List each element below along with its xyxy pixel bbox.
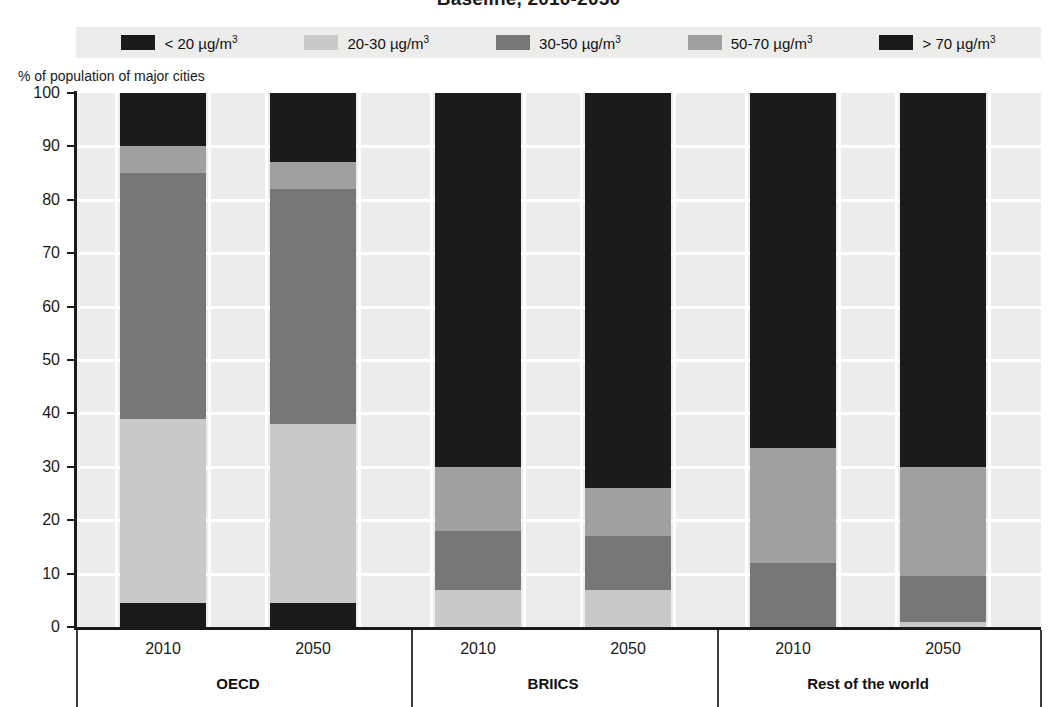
x-axis-line xyxy=(74,627,1041,630)
bar-segment-30-50-g-m3 xyxy=(750,563,836,627)
y-tick-label-10: 10 xyxy=(4,566,60,582)
bar-segment--70-g-m3 xyxy=(270,93,356,162)
y-tick-60 xyxy=(67,306,75,308)
y-tick-label-90: 90 xyxy=(4,138,60,154)
y-tick-label-70: 70 xyxy=(4,245,60,261)
y-tick-70 xyxy=(67,252,75,254)
legend-item-gt-70[interactable]: > 70 µg/m3 xyxy=(879,35,995,51)
legend-item-20-30[interactable]: 20-30 µg/m3 xyxy=(304,35,429,51)
bar-segment-20-30-g-m3 xyxy=(435,590,521,627)
legend-swatch-gt-70 xyxy=(879,35,913,50)
x-axis-year-label: 2010 xyxy=(733,640,853,658)
bar-segment-30-50-g-m3 xyxy=(270,189,356,424)
bar-segment--70-g-m3 xyxy=(750,93,836,448)
group-label-rest-of-the-world: Rest of the world xyxy=(703,675,1033,692)
bar-segment--70-g-m3 xyxy=(120,93,206,146)
bar-briics-2010[interactable] xyxy=(435,93,521,627)
legend-label-30-50: 30-50 µg/m3 xyxy=(539,35,621,51)
bar-segment-20-30-g-m3 xyxy=(120,419,206,603)
bar-segment-50-70-g-m3 xyxy=(435,467,521,531)
bar-segment--20-g-m3 xyxy=(120,603,206,627)
bar-rest-of-the-world-2010[interactable] xyxy=(750,93,836,627)
legend-item-lt-20[interactable]: < 20 µg/m3 xyxy=(121,35,237,51)
legend-swatch-50-70 xyxy=(688,35,722,50)
legend-label-20-30: 20-30 µg/m3 xyxy=(347,35,429,51)
y-tick-label-80: 80 xyxy=(4,192,60,208)
legend-label-50-70: 50-70 µg/m3 xyxy=(731,35,813,51)
y-tick-label-100: 100 xyxy=(4,85,60,101)
vgridline-5-0 xyxy=(895,93,898,627)
chart-title: Baseline, 2010-2050 xyxy=(0,0,1057,10)
bar-segment-50-70-g-m3 xyxy=(120,146,206,173)
bar-segment--70-g-m3 xyxy=(900,93,986,467)
vgridline-0-1 xyxy=(208,93,211,627)
bar-segment-30-50-g-m3 xyxy=(435,531,521,590)
bar-segment-30-50-g-m3 xyxy=(120,173,206,419)
x-axis-year-label: 2010 xyxy=(103,640,223,658)
legend-label-lt-20: < 20 µg/m3 xyxy=(164,35,237,51)
y-tick-10 xyxy=(67,573,75,575)
legend-swatch-lt-20 xyxy=(121,35,155,50)
bar-segment--20-g-m3 xyxy=(270,603,356,627)
y-tick-label-60: 60 xyxy=(4,299,60,315)
bar-oecd-2010[interactable] xyxy=(120,93,206,627)
legend-label-gt-70: > 70 µg/m3 xyxy=(922,35,995,51)
bar-briics-2050[interactable] xyxy=(585,93,671,627)
vgridline-5-1 xyxy=(988,93,991,627)
vgridline-2-1 xyxy=(523,93,526,627)
y-tick-30 xyxy=(67,466,75,468)
legend-swatch-20-30 xyxy=(304,35,338,50)
y-tick-label-40: 40 xyxy=(4,405,60,421)
vgridline-4-0 xyxy=(745,93,748,627)
y-axis-caption: % of population of major cities xyxy=(18,68,205,84)
group-separator-3 xyxy=(1040,630,1042,707)
group-separator-0 xyxy=(76,630,78,707)
group-label-oecd: OECD xyxy=(73,675,403,692)
bar-segment--70-g-m3 xyxy=(585,93,671,488)
y-tick-label-30: 30 xyxy=(4,459,60,475)
y-tick-50 xyxy=(67,359,75,361)
legend-item-50-70[interactable]: 50-70 µg/m3 xyxy=(688,35,813,51)
x-axis-year-label: 2050 xyxy=(568,640,688,658)
bar-segment-50-70-g-m3 xyxy=(750,448,836,563)
bar-segment--70-g-m3 xyxy=(435,93,521,467)
y-tick-90 xyxy=(67,145,75,147)
y-tick-100 xyxy=(67,92,75,94)
bar-rest-of-the-world-2050[interactable] xyxy=(900,93,986,627)
group-label-briics: BRIICS xyxy=(388,675,718,692)
y-tick-0 xyxy=(67,626,75,628)
y-tick-40 xyxy=(67,412,75,414)
y-tick-label-50: 50 xyxy=(4,352,60,368)
y-tick-20 xyxy=(67,519,75,521)
bar-segment-20-30-g-m3 xyxy=(585,590,671,627)
bar-segment-50-70-g-m3 xyxy=(900,467,986,576)
bar-segment-20-30-g-m3 xyxy=(270,424,356,603)
legend-item-30-50[interactable]: 30-50 µg/m3 xyxy=(496,35,621,51)
y-tick-80 xyxy=(67,199,75,201)
plot-area xyxy=(76,93,1041,627)
bar-segment-50-70-g-m3 xyxy=(585,488,671,536)
bar-oecd-2050[interactable] xyxy=(270,93,356,627)
vgridline-2-0 xyxy=(430,93,433,627)
y-tick-label-0: 0 xyxy=(4,619,60,635)
vgridline-3-1 xyxy=(673,93,676,627)
chart-page: Baseline, 2010-2050 < 20 µg/m320-30 µg/m… xyxy=(0,0,1057,707)
vgridline-1-1 xyxy=(358,93,361,627)
x-axis-year-label: 2010 xyxy=(418,640,538,658)
chart-legend: < 20 µg/m320-30 µg/m330-50 µg/m350-70 µg… xyxy=(76,27,1041,58)
vgridline-4-1 xyxy=(838,93,841,627)
group-separator-2 xyxy=(717,630,719,707)
x-axis-year-label: 2050 xyxy=(253,640,373,658)
vgridline-0-0 xyxy=(115,93,118,627)
bar-segment-30-50-g-m3 xyxy=(585,536,671,589)
vgridline-1-0 xyxy=(265,93,268,627)
vgridline-3-0 xyxy=(580,93,583,627)
group-separator-1 xyxy=(411,630,413,707)
bar-segment-30-50-g-m3 xyxy=(900,576,986,621)
legend-swatch-30-50 xyxy=(496,35,530,50)
y-tick-label-20: 20 xyxy=(4,512,60,528)
x-axis-year-label: 2050 xyxy=(883,640,1003,658)
bar-segment-50-70-g-m3 xyxy=(270,162,356,189)
